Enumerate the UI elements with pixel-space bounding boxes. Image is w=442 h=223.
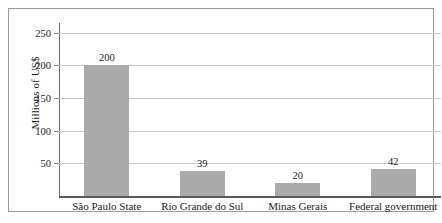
y-axis-tick bbox=[54, 131, 59, 132]
x-axis-category-label: Rio Grande do Sul bbox=[161, 200, 243, 212]
bar-value-label: 39 bbox=[197, 158, 208, 169]
bar-value-label: 200 bbox=[99, 52, 115, 63]
bar-chart-figure: Millions of US$ 50100150200250 200392042… bbox=[0, 0, 442, 223]
y-axis-tick-label: 150 bbox=[35, 93, 51, 104]
x-axis-category-label: Federal government bbox=[349, 200, 437, 212]
bar: 42 bbox=[371, 169, 416, 196]
plot-area: 50100150200250 200392042 bbox=[59, 23, 441, 196]
y-axis-tick-label: 100 bbox=[35, 125, 51, 136]
bar: 200 bbox=[84, 65, 129, 196]
figure-frame: Millions of US$ 50100150200250 200392042… bbox=[8, 8, 434, 212]
y-axis-tick bbox=[54, 65, 59, 66]
y-axis-tick-label: 50 bbox=[41, 158, 52, 169]
gridline bbox=[59, 33, 441, 34]
bar: 20 bbox=[275, 183, 320, 196]
x-axis-category-label: São Paulo State bbox=[72, 200, 141, 212]
x-axis-category-label: Minas Gerais bbox=[268, 200, 327, 212]
y-axis-tick bbox=[54, 163, 59, 164]
y-axis-tick bbox=[54, 98, 59, 99]
bar-value-label: 20 bbox=[293, 170, 304, 181]
x-axis-line bbox=[59, 196, 441, 198]
y-axis-tick-label: 200 bbox=[35, 60, 51, 71]
y-axis-tick-label: 250 bbox=[35, 27, 51, 38]
bar-value-label: 42 bbox=[388, 156, 399, 167]
bar: 39 bbox=[180, 171, 225, 196]
y-axis-tick bbox=[54, 33, 59, 34]
